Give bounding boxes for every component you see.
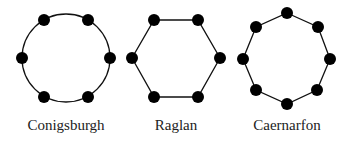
vertex-dot: [38, 14, 50, 26]
conigsburgh-circle: [22, 14, 110, 102]
vertex-dot: [82, 91, 94, 103]
conigsburgh-figure: [16, 14, 116, 103]
caernarfon-label: Caernarfon: [253, 117, 320, 134]
vertex-dot: [148, 91, 160, 103]
vertex-dot: [250, 21, 262, 33]
vertex-dot: [104, 52, 116, 64]
vertex-dot: [16, 52, 28, 64]
raglan-hexagon: [132, 20, 220, 97]
vertex-dot: [192, 91, 204, 103]
vertex-dot: [324, 53, 336, 65]
conigsburgh-label: Conigsburgh: [27, 117, 104, 134]
vertex-dot: [312, 21, 324, 33]
vertex-dot: [192, 14, 204, 26]
vertex-dot: [311, 84, 323, 96]
vertex-dot: [126, 52, 138, 64]
vertex-dot: [281, 7, 293, 19]
vertex-dot: [38, 91, 50, 103]
vertex-dot: [281, 98, 293, 110]
vertex-dot: [250, 84, 262, 96]
vertex-dot: [214, 52, 226, 64]
raglan-label: Raglan: [155, 117, 198, 134]
caernarfon-figure: [237, 7, 336, 110]
vertex-dot: [82, 14, 94, 26]
vertex-dot: [148, 14, 160, 26]
vertex-dot: [237, 53, 249, 65]
raglan-figure: [126, 14, 226, 103]
